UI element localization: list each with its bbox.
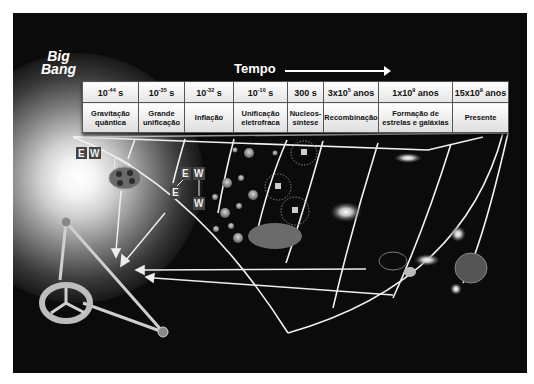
electroweak-pair: E W <box>76 147 101 159</box>
time-cell: 15x109 anos <box>453 82 509 103</box>
time-cell: 10-10 s <box>234 82 288 103</box>
cosmic-background-ellipse <box>248 223 302 249</box>
svg-text:W: W <box>194 198 204 209</box>
era-cell: Grandeunificação <box>139 103 185 133</box>
time-cell: 1x109 anos <box>379 82 453 103</box>
timeline-table: 10-44 s 10-35 s 10-32 s 10-10 s 300 s 3x… <box>82 81 509 133</box>
svg-text:E: E <box>172 187 179 198</box>
funnel-top-edge <box>73 133 508 137</box>
svg-text:E: E <box>182 168 189 179</box>
era-cell: Nucleos-síntese <box>288 103 324 133</box>
era-cell: Formação deestrelas e galáxias <box>379 103 453 133</box>
era-cell: Recombinação <box>324 103 379 133</box>
era-cell: Gravitaçãoquântica <box>83 103 139 133</box>
time-cell: 10-32 s <box>185 82 234 103</box>
svg-text:W: W <box>90 148 100 159</box>
era-row: Gravitaçãoquântica Grandeunificação Infl… <box>83 103 509 133</box>
time-cell: 3x105 anos <box>324 82 379 103</box>
time-row: 10-44 s 10-35 s 10-32 s 10-10 s 300 s 3x… <box>83 82 509 103</box>
svg-text:E: E <box>78 148 85 159</box>
funnel-right-edge <box>288 133 503 333</box>
era-cell: Presente <box>453 103 509 133</box>
time-cell: 300 s <box>288 82 324 103</box>
era-cell: Inflação <box>185 103 234 133</box>
unified-particle <box>109 157 141 189</box>
svg-text:W: W <box>194 168 204 179</box>
era-cell: Unificaçãoeletrofraca <box>234 103 288 133</box>
cosmic-evolution-illustration: E W E W E W <box>13 13 527 373</box>
time-cell: 10-35 s <box>139 82 185 103</box>
diagram-panel: Big Bang Tempo <box>13 13 527 373</box>
time-cell: 10-44 s <box>83 82 139 103</box>
